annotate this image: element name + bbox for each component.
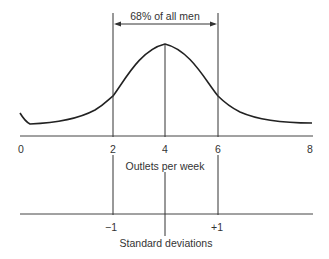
tick-label-8: 8 xyxy=(307,143,313,155)
arrowhead-left-icon xyxy=(114,22,121,27)
std-dev-axis-label: Standard deviations xyxy=(120,237,213,249)
tick-label-0: 0 xyxy=(18,143,24,155)
bell-curve xyxy=(20,44,312,124)
arrowhead-right-icon xyxy=(210,22,217,27)
tick-label-6: 6 xyxy=(215,143,221,155)
std-tick-plus-one: +1 xyxy=(211,221,223,233)
outlets-axis-label: Outlets per week xyxy=(126,160,205,172)
tick-label-2: 2 xyxy=(110,143,116,155)
tick-label-4: 4 xyxy=(162,143,168,155)
distribution-diagram xyxy=(0,0,329,259)
bracket-label: 68% of all men xyxy=(128,10,201,22)
std-tick-minus-one: −1 xyxy=(105,221,117,233)
